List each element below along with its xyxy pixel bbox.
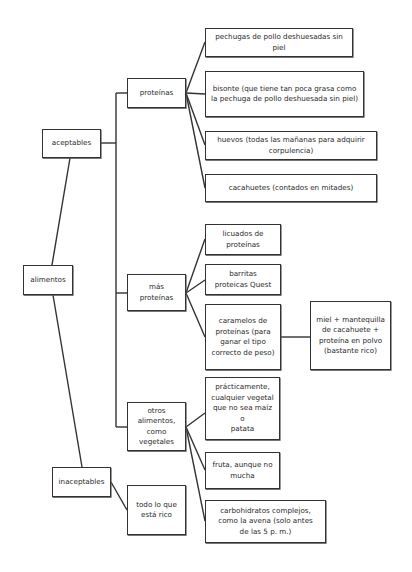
node-label: proteínas	[140, 88, 174, 99]
node-aceptables: aceptables	[42, 129, 101, 158]
node-label-line: bisonte (que tiene tan poca grasa como	[213, 84, 357, 95]
node-label-line: como la avena (solo antes	[218, 516, 313, 527]
node-label: pechugas de pollo deshuesadas sin piel	[210, 32, 348, 53]
node-barritas: barritas proteicas Quest	[205, 264, 281, 295]
node-todo-lo-que-esta-rico: todo lo que está rico	[127, 485, 186, 535]
node-label-line: proteínas	[226, 240, 260, 251]
node-label-line: todo lo que	[136, 500, 177, 511]
node-bisonte: bisonte (que tiene tan poca grasa como l…	[205, 71, 364, 117]
node-huevos: huevos (todas las mañanas para adquirir …	[205, 131, 377, 160]
node-label: inaceptables	[59, 477, 105, 488]
node-mas-proteinas: más proteínas	[127, 274, 186, 311]
node-label-line: más	[149, 282, 164, 293]
node-label-line: de las 5 p. m.)	[240, 527, 292, 538]
node-practicamente-vegetal: prácticamente, cualquier vegetal que no …	[205, 377, 280, 440]
node-label-line: barritas	[229, 269, 257, 280]
node-label-line: proteína en polvo	[319, 336, 382, 347]
node-label: aceptables	[52, 138, 91, 149]
node-label-line: patata	[231, 424, 254, 435]
node-licuados: licuados de proteínas	[205, 224, 281, 255]
node-label-line: fruta, aunque no	[212, 460, 272, 471]
node-label-line: prácticamente,	[215, 382, 270, 393]
node-label-line: ganar el tipo	[220, 337, 266, 348]
node-otros-alimentos: otros alimentos, como vegetales	[127, 402, 186, 451]
node-label-line: otros	[147, 406, 165, 417]
node-inaceptables: inaceptables	[52, 467, 111, 497]
node-carbohidratos: carbohidratos complejos, como la avena (…	[205, 500, 326, 543]
node-label-line: mucha	[230, 471, 254, 482]
node-caramelos: caramelos de proteínas (para ganar el ti…	[205, 304, 281, 370]
node-label-line: licuados de	[223, 229, 264, 240]
node-label-line: huevos (todas las mañanas para adquirir	[217, 135, 365, 146]
node-label-line: proteicas Quest	[215, 280, 272, 291]
node-label-line: proteínas (para	[215, 327, 270, 338]
node-label-line: correcto de peso)	[211, 348, 274, 359]
node-label-line: (bastante rico)	[324, 346, 377, 357]
node-label-line: que no sea maíz o	[210, 403, 275, 424]
node-label-line: cualquier vegetal	[211, 393, 274, 404]
node-label-line: caramelos de	[219, 316, 268, 327]
node-label-line: la pechuga de pollo deshuesada sin piel)	[211, 94, 358, 105]
node-label: alimentos	[30, 275, 65, 286]
node-label: cacahuetes (contados en mitades)	[229, 183, 353, 194]
node-label-line: corpulencia)	[269, 146, 314, 157]
node-alimentos: alimentos	[23, 265, 73, 295]
node-label-line: miel + mantequilla	[316, 315, 385, 326]
node-label-line: carbohidratos complejos,	[220, 506, 311, 517]
node-label-line: proteínas	[140, 293, 174, 304]
node-miel-mantequilla: miel + mantequilla de cacahuete + proteí…	[310, 301, 391, 370]
node-label-line: está rico	[141, 510, 172, 521]
node-label-line: alimentos,	[138, 416, 176, 427]
node-pechugas: pechugas de pollo deshuesadas sin piel	[205, 28, 353, 57]
node-fruta: fruta, aunque no mucha	[205, 452, 280, 489]
node-proteinas: proteínas	[127, 78, 186, 108]
node-label-line: como vegetales	[132, 427, 181, 448]
node-label-line: de cacahuete +	[322, 325, 379, 336]
node-cacahuetes: cacahuetes (contados en mitades)	[205, 174, 377, 202]
